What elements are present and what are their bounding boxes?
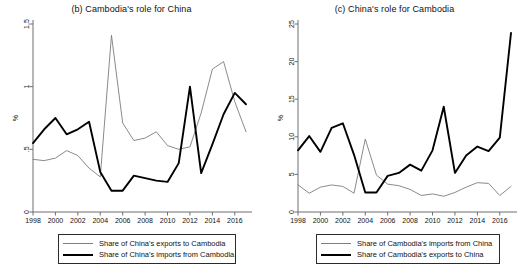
y-tick-label: 0 bbox=[288, 210, 295, 214]
series-line-thick bbox=[298, 33, 511, 192]
y-axis-label: % bbox=[12, 115, 19, 121]
x-tick-label: 2014 bbox=[205, 217, 221, 224]
y-tick-label: 0 bbox=[23, 210, 30, 214]
legend-line-thin-icon bbox=[63, 240, 93, 248]
legend-label-thick: Share of China's imports from Cambodia bbox=[99, 250, 234, 260]
x-tick-label: 2004 bbox=[357, 217, 373, 224]
series-line-thick bbox=[33, 87, 246, 191]
panel-c-legend: Share of Cambodia's imports from China S… bbox=[316, 234, 500, 264]
x-tick-label: 2006 bbox=[115, 217, 131, 224]
legend-item-thin: Share of China's exports to Cambodia bbox=[63, 238, 230, 249]
y-tick-label: 1 bbox=[23, 85, 30, 89]
y-axis-label: % bbox=[277, 115, 284, 121]
x-tick-label: 2014 bbox=[470, 217, 486, 224]
x-tick-label: 2016 bbox=[492, 217, 508, 224]
x-tick-label: 2000 bbox=[313, 217, 329, 224]
x-tick-label: 2006 bbox=[380, 217, 396, 224]
y-tick-label: 25 bbox=[288, 20, 295, 28]
x-tick-label: 2012 bbox=[447, 217, 463, 224]
legend-label-thin: Share of Cambodia's imports from China bbox=[357, 239, 492, 249]
x-tick-label: 2012 bbox=[182, 217, 198, 224]
x-tick-label: 1998 bbox=[25, 217, 41, 224]
chart-panel-c: (c) China's role for Cambodia 0510152025… bbox=[263, 0, 526, 271]
y-tick-label: 1.5 bbox=[23, 19, 30, 29]
x-tick-label: 2016 bbox=[227, 217, 243, 224]
panel-b-legend: Share of China's exports to Cambodia Sha… bbox=[58, 234, 236, 264]
legend-line-thick-icon bbox=[63, 251, 93, 259]
legend-label-thick: Share of Cambodia's exports to China bbox=[357, 250, 484, 260]
y-tick-label: 5 bbox=[288, 172, 295, 176]
legend-label-thin: Share of China's exports to Cambodia bbox=[99, 239, 226, 249]
legend-item-thick: Share of China's imports from Cambodia bbox=[63, 249, 230, 260]
y-tick-label: 15 bbox=[288, 95, 295, 103]
x-tick-label: 2010 bbox=[425, 217, 441, 224]
y-tick-label: .5 bbox=[23, 146, 30, 152]
legend-item-thick: Share of Cambodia's exports to China bbox=[321, 249, 494, 260]
legend-item-thin: Share of Cambodia's imports from China bbox=[321, 238, 494, 249]
x-tick-label: 2004 bbox=[92, 217, 108, 224]
x-tick-label: 2002 bbox=[335, 217, 351, 224]
figure-container: (b) Cambodia's role for China 0.511.5%19… bbox=[0, 0, 526, 271]
series-line-thin bbox=[33, 35, 246, 177]
x-tick-label: 2010 bbox=[160, 217, 176, 224]
panel-c-plot: 0510152025%19982000200220042006200820102… bbox=[263, 0, 526, 271]
y-tick-label: 20 bbox=[288, 58, 295, 66]
x-tick-label: 1998 bbox=[290, 217, 306, 224]
x-tick-label: 2000 bbox=[48, 217, 64, 224]
x-tick-label: 2002 bbox=[70, 217, 86, 224]
y-tick-label: 10 bbox=[288, 133, 295, 141]
legend-line-thin-icon bbox=[321, 240, 351, 248]
legend-line-thick-icon bbox=[321, 251, 351, 259]
x-tick-label: 2008 bbox=[137, 217, 153, 224]
chart-panel-b: (b) Cambodia's role for China 0.511.5%19… bbox=[0, 0, 263, 271]
x-tick-label: 2008 bbox=[402, 217, 418, 224]
panel-b-plot: 0.511.5%19982000200220042006200820102012… bbox=[0, 0, 263, 271]
